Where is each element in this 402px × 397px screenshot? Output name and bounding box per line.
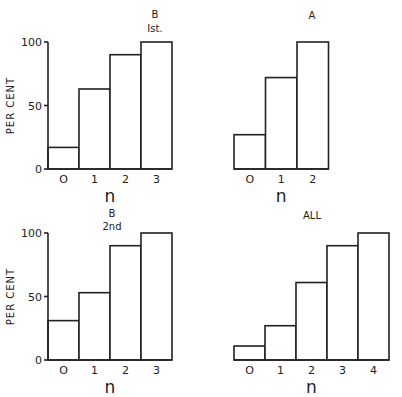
- chart-panel-bottom-right: O1234ALLn: [234, 210, 389, 397]
- chart-panel-top-left: O123050100PER CENTBIst.n: [5, 9, 172, 206]
- x-tick-label: 3: [339, 364, 346, 377]
- x-tick-label: 2: [122, 173, 129, 186]
- chart-panel-top-right: O12An: [234, 10, 329, 206]
- y-tick-label: 0: [35, 163, 42, 176]
- bar-O: [48, 147, 79, 169]
- x-tick-label: 2: [309, 173, 316, 186]
- y-tick-label: 50: [28, 100, 42, 113]
- x-tick-label: 3: [153, 364, 160, 377]
- bar-1: [266, 78, 298, 169]
- chart-panel-bottom-left: O123050100PER CENTB2ndn: [5, 208, 172, 397]
- bar-2: [296, 283, 327, 360]
- bar-2: [297, 42, 329, 169]
- x-tick-label: 1: [91, 364, 98, 377]
- x-axis-label: n: [276, 186, 287, 206]
- bar-O: [234, 346, 265, 360]
- x-axis-label: n: [105, 186, 116, 206]
- bar-1: [79, 293, 110, 360]
- x-tick-label: 4: [370, 364, 377, 377]
- bar-O: [48, 321, 79, 360]
- x-tick-label: O: [59, 173, 68, 186]
- chart-title: B: [109, 208, 116, 219]
- chart-subtitle: Ist.: [147, 23, 162, 34]
- bar-2: [110, 246, 141, 360]
- x-tick-label: O: [245, 364, 254, 377]
- x-axis-label: n: [306, 377, 317, 397]
- y-axis-label: PER CENT: [5, 77, 16, 134]
- x-tick-label: 2: [308, 364, 315, 377]
- y-tick-label: 100: [21, 36, 42, 49]
- y-tick-label: 0: [35, 354, 42, 367]
- figure-canvas: O123050100PER CENTBIst.nO12AnO123050100P…: [0, 0, 402, 397]
- chart-subtitle: 2nd: [102, 221, 121, 232]
- chart-title: ALL: [303, 210, 321, 221]
- x-tick-label: 3: [153, 173, 160, 186]
- bar-4: [358, 233, 389, 360]
- x-tick-label: 2: [122, 364, 129, 377]
- bar-O: [234, 135, 266, 169]
- bar-3: [141, 233, 172, 360]
- x-axis-label: n: [105, 377, 116, 397]
- bar-2: [110, 55, 141, 169]
- y-tick-label: 100: [21, 227, 42, 240]
- bar-1: [79, 89, 110, 169]
- chart-title: A: [309, 10, 316, 21]
- x-tick-label: 1: [91, 173, 98, 186]
- y-axis-label: PER CENT: [5, 268, 16, 325]
- x-tick-label: O: [59, 364, 68, 377]
- x-tick-label: 1: [277, 364, 284, 377]
- bar-3: [327, 246, 358, 360]
- bar-3: [141, 42, 172, 169]
- chart-title: B: [152, 9, 159, 20]
- y-tick-label: 50: [28, 291, 42, 304]
- bar-1: [265, 326, 296, 360]
- x-tick-label: O: [245, 173, 254, 186]
- x-tick-label: 1: [278, 173, 285, 186]
